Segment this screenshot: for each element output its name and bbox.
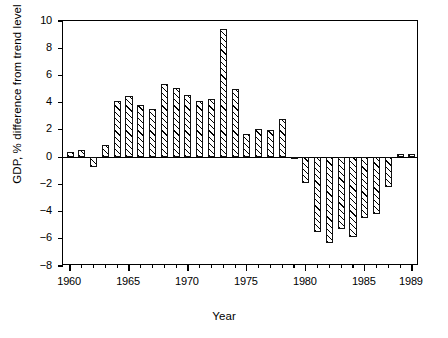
x-tick-label: 1989	[389, 276, 433, 287]
y-tick	[58, 184, 63, 185]
x-tick-label: 1975	[224, 276, 268, 287]
y-tick-label: 4	[26, 96, 52, 107]
x-axis-title: Year	[0, 310, 448, 322]
bar	[196, 101, 203, 157]
bar	[232, 89, 239, 157]
x-tick-minor	[140, 264, 141, 268]
x-tick-minor	[199, 264, 200, 268]
x-tick-label: 1965	[106, 276, 150, 287]
bar	[114, 101, 121, 157]
y-tick	[58, 157, 63, 158]
x-tick-minor	[93, 264, 94, 268]
x-tick-label: 1970	[165, 276, 209, 287]
bar	[326, 157, 333, 243]
x-tick-label: 1980	[283, 276, 327, 287]
bar	[279, 119, 286, 157]
y-tick	[58, 20, 63, 21]
x-tick-minor	[164, 264, 165, 268]
bar	[243, 134, 250, 157]
x-tick-minor	[282, 264, 283, 268]
bar	[314, 157, 321, 232]
y-tick	[58, 238, 63, 239]
bar	[255, 129, 262, 158]
x-tick-major	[246, 264, 247, 271]
bar	[302, 157, 309, 183]
plot-area	[62, 20, 418, 265]
x-tick-minor	[211, 264, 212, 268]
x-tick-major	[69, 264, 70, 271]
y-tick-label: 8	[26, 42, 52, 53]
bar	[373, 157, 380, 214]
x-tick-minor	[117, 264, 118, 268]
x-tick-minor	[388, 264, 389, 268]
bar	[184, 95, 191, 158]
bar	[408, 154, 415, 157]
bar	[208, 99, 215, 158]
bar	[291, 157, 298, 159]
y-tick-label: 0	[26, 151, 52, 162]
y-tick-label: 6	[26, 69, 52, 80]
x-tick-major	[187, 264, 188, 271]
bar	[161, 84, 168, 158]
bar	[149, 109, 156, 157]
bar	[78, 150, 85, 157]
y-tick-label: −2	[26, 178, 52, 189]
x-tick-minor	[352, 264, 353, 268]
x-tick-minor	[223, 264, 224, 268]
y-tick	[58, 102, 63, 103]
y-tick-label: 10	[26, 15, 52, 26]
y-tick	[58, 129, 63, 130]
x-tick-minor	[176, 264, 177, 268]
bar	[338, 157, 345, 229]
x-tick-minor	[293, 264, 294, 268]
x-tick-minor	[376, 264, 377, 268]
x-tick-major	[364, 264, 365, 271]
y-tick	[58, 75, 63, 76]
bar	[102, 145, 109, 157]
x-tick-minor	[105, 264, 106, 268]
x-tick-major	[305, 264, 306, 271]
x-tick-label: 1960	[47, 276, 91, 287]
bar	[349, 157, 356, 237]
y-axis-title: GDP, % difference from trend level	[11, 0, 23, 229]
x-tick-minor	[235, 264, 236, 268]
x-tick-minor	[329, 264, 330, 268]
y-tick-label: −8	[26, 260, 52, 271]
x-tick-minor	[341, 264, 342, 268]
bar	[125, 96, 132, 157]
figure: 1086420−2−4−6−8 196019651970197519801985…	[0, 0, 448, 338]
x-tick-minor	[400, 264, 401, 268]
y-tick	[58, 211, 63, 212]
y-tick	[58, 265, 63, 266]
y-tick-label: −4	[26, 205, 52, 216]
bar	[267, 130, 274, 157]
bar	[173, 88, 180, 157]
bar	[361, 157, 368, 218]
bar	[67, 152, 74, 157]
y-tick-label: −6	[26, 232, 52, 243]
bar	[397, 154, 404, 157]
x-tick-minor	[258, 264, 259, 268]
bar	[385, 157, 392, 187]
x-tick-label: 1985	[342, 276, 386, 287]
y-tick	[58, 48, 63, 49]
x-tick-minor	[81, 264, 82, 268]
y-tick-label: 2	[26, 123, 52, 134]
bar	[90, 157, 97, 167]
x-tick-minor	[152, 264, 153, 268]
x-tick-major	[411, 264, 412, 271]
x-tick-minor	[317, 264, 318, 268]
x-tick-minor	[270, 264, 271, 268]
bar	[137, 105, 144, 157]
x-tick-major	[128, 264, 129, 271]
bar	[220, 29, 227, 157]
